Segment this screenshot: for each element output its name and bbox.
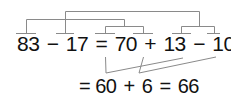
number-6: 6 (142, 76, 153, 96)
number-70: 70 (115, 33, 137, 55)
number-10: 10 (212, 33, 231, 55)
number-60: 60 (95, 76, 116, 96)
equation-line-2: = 60 + 6 = 66 (79, 76, 199, 96)
plus-sign: + (124, 76, 135, 96)
minus-sign: − (193, 33, 205, 55)
minus-sign: − (47, 33, 59, 55)
equals-sign: = (96, 33, 108, 55)
calculation-diagram: 83 − 17 = 70 + 13 − 10 − 7 = 60 + 6 = 66 (0, 0, 231, 102)
equals-sign: = (79, 76, 90, 96)
equals-sign: = (160, 76, 171, 96)
connector-70-10 (106, 57, 184, 73)
equation-line-1: 83 − 17 = 70 + 13 − 10 − 7 (17, 33, 231, 55)
number-83: 83 (17, 33, 39, 55)
number-17: 17 (66, 33, 88, 55)
number-13: 13 (163, 33, 185, 55)
bracket-top (66, 12, 200, 34)
plus-sign: + (144, 33, 156, 55)
result-66: 66 (178, 76, 199, 96)
